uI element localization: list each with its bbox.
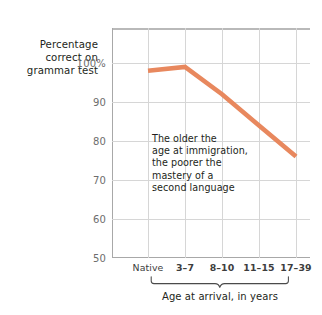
chart-annotation: The older the age at immigration, the po… bbox=[152, 133, 256, 194]
chart-annotation-line-2: age at immigration, bbox=[152, 145, 256, 157]
y-axis-title-line-1: Percentage bbox=[2, 38, 98, 51]
chart-annotation-line-4: mastery of a bbox=[152, 170, 256, 182]
gridline-x-native bbox=[148, 28, 149, 258]
x-axis-line bbox=[112, 257, 310, 258]
grammar-test-line-chart: Percentage correct on grammar test 100% … bbox=[0, 0, 322, 315]
y-tick-label-90: 90 bbox=[70, 97, 106, 108]
x-axis-group-bracket bbox=[150, 276, 290, 289]
y-tick-label-50: 50 bbox=[70, 253, 106, 264]
gridline-y-100 bbox=[112, 63, 310, 64]
y-tick-label-60: 60 bbox=[70, 214, 106, 225]
x-tick-label-17-39: 17–39 bbox=[273, 262, 319, 273]
chart-annotation-line-5: second language bbox=[152, 182, 256, 194]
gridline-x-11-15 bbox=[259, 28, 260, 258]
chart-annotation-line-3: the poorer the bbox=[152, 157, 256, 169]
gridline-y-60 bbox=[112, 219, 310, 220]
y-tick-label-70: 70 bbox=[70, 175, 106, 186]
gridline-y-90 bbox=[112, 102, 310, 103]
x-axis-title: Age at arrival, in years bbox=[130, 291, 310, 302]
chart-annotation-line-1: The older the bbox=[152, 133, 256, 145]
gridline-x-17-39 bbox=[296, 28, 297, 258]
plot-top-border bbox=[112, 28, 310, 30]
y-tick-label-100: 100% bbox=[70, 58, 106, 69]
y-tick-label-80: 80 bbox=[70, 136, 106, 147]
